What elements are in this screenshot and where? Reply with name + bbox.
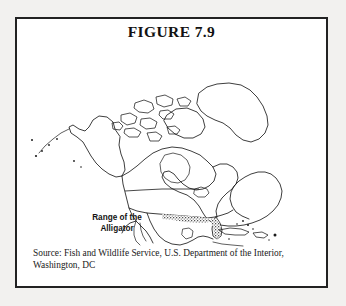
- aleutian-islet-1: [35, 155, 37, 157]
- range-label: Range of the Alligator: [65, 213, 169, 234]
- map-north-america: [17, 43, 326, 247]
- source-line-1: Source: Fish and Wildlife Service, U.S. …: [33, 247, 317, 259]
- south-america-north-coast: [213, 242, 243, 246]
- bahamas-islet-1: [247, 224, 249, 226]
- figure-frame: FIGURE 7.9: [15, 17, 328, 288]
- coastal-islet-2: [80, 166, 82, 168]
- arctic-island-4: [140, 118, 157, 129]
- arctic-island-6: [177, 97, 191, 106]
- us-canada-border: [125, 189, 199, 191]
- aleutian-islet-2: [41, 150, 43, 152]
- baffin-island-outline: [164, 108, 205, 138]
- yucatan-peninsula: [182, 228, 193, 239]
- hispaniola-outline: [253, 232, 268, 238]
- arctic-island-3: [121, 113, 137, 125]
- aleutian-islet-5: [31, 139, 33, 141]
- alaska-outline: [69, 116, 125, 177]
- source-note: Source: Fish and Wildlife Service, U.S. …: [33, 247, 317, 272]
- arctic-island-2: [156, 95, 173, 107]
- map-svg: [17, 43, 326, 247]
- caribbean-islet-1: [228, 238, 230, 240]
- great-lakes-outline: [194, 187, 209, 197]
- cuba-outline: [219, 228, 249, 235]
- alligator-range-gulf-band: [162, 214, 209, 223]
- caribbean-islet-2: [268, 239, 269, 240]
- coastal-islet-1: [73, 160, 75, 162]
- aleutian-islet-4: [56, 138, 58, 140]
- greenland-outline: [197, 83, 268, 142]
- bahamas-islet-3: [236, 223, 238, 225]
- range-label-line-2: Alligator: [65, 224, 169, 235]
- arctic-island-1: [134, 100, 154, 113]
- aleutian-chain: [39, 129, 69, 153]
- source-line-2: Washington, DC: [33, 259, 317, 271]
- puerto-rico: [274, 234, 277, 237]
- arctic-island-7: [124, 128, 141, 137]
- aleutian-islet-3: [48, 144, 50, 146]
- hudson-bay-outline: [160, 153, 190, 183]
- bahamas-islet-2: [242, 220, 244, 222]
- range-label-line-1: Range of the: [65, 213, 169, 224]
- figure-title: FIGURE 7.9: [17, 23, 326, 41]
- bahamas-islet-4: [252, 228, 254, 230]
- arctic-island-8: [147, 132, 162, 141]
